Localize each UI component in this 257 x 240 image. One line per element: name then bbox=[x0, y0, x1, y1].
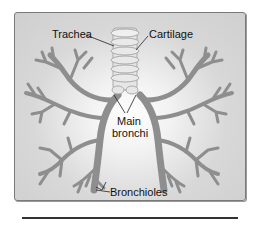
label-cartilage: Cartilage bbox=[149, 28, 193, 40]
right-lung-branches bbox=[140, 48, 232, 192]
trachea bbox=[111, 28, 139, 94]
label-bronchioles: Bronchioles bbox=[110, 186, 167, 198]
label-trachea: Trachea bbox=[52, 28, 92, 40]
label-main-bronchi-line2: bronchi bbox=[112, 127, 148, 139]
bottom-divider bbox=[22, 217, 238, 219]
label-main-bronchi-line1: Main bbox=[117, 115, 141, 127]
left-lung-branches bbox=[26, 48, 118, 192]
